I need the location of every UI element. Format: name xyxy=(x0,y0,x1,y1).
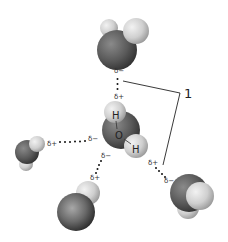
water-molecule-center xyxy=(102,101,148,158)
partial-charge-label: δ+ xyxy=(114,93,124,101)
hydrogen-bond-left xyxy=(59,140,86,143)
callout-number: 1 xyxy=(184,86,192,101)
hydrogen-bond-top xyxy=(117,78,119,90)
water-molecule-left xyxy=(15,136,45,171)
partial-charge-label: δ+ xyxy=(148,159,158,167)
water-molecule-top xyxy=(97,18,149,70)
hydrogen-bond-bottom-left xyxy=(95,160,102,174)
partial-charge-label: δ− xyxy=(101,152,111,160)
atom-label-hydrogen: H xyxy=(132,144,140,155)
partial-charge-label: δ+ xyxy=(90,174,100,182)
water-hydrogen-bond-diagram: δ− δ+ 1 H O H δ+ δ− δ− δ+ δ+ δ xyxy=(0,0,228,242)
hydrogen-atom xyxy=(186,182,214,210)
partial-charge-label: δ+ xyxy=(47,140,57,148)
partial-charge-label: δ− xyxy=(114,67,124,75)
water-molecule-bottom-right xyxy=(170,174,214,219)
partial-charge-label: δ− xyxy=(88,135,98,143)
oxygen-atom xyxy=(57,193,95,231)
water-molecule-bottom-left xyxy=(57,181,100,231)
hydrogen-atom xyxy=(29,136,45,152)
atom-label-hydrogen: H xyxy=(112,110,120,121)
atom-label-oxygen: O xyxy=(115,130,123,141)
hydrogen-atom xyxy=(123,18,149,44)
